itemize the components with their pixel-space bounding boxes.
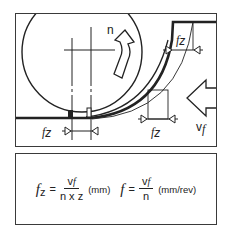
feed-per-tooth-formula: fz = vf n x z (mm) (36, 176, 111, 202)
milling-diagram: n fz fz fz vf (0, 0, 229, 150)
fz-symbol: fz (36, 181, 46, 198)
numerator: vf (64, 176, 78, 189)
fz-label-top: fz (176, 33, 185, 48)
vf-label: vf (196, 120, 207, 136)
rotation-arrow (114, 30, 134, 78)
formula-panel: fz = vf n x z (mm) f = vf n (mm/rev) (15, 153, 217, 225)
rotation-label: n (107, 23, 114, 37)
fz-label-bottom-mid: fz (151, 125, 160, 140)
unit-mm: (mm) (88, 184, 110, 195)
fz-dimension-bottom-mid (138, 115, 178, 123)
equals-sign: = (128, 183, 134, 195)
tooth-insert-right (87, 108, 91, 117)
fraction: vf n (139, 176, 153, 202)
f-symbol: f (120, 181, 124, 198)
denominator: n (143, 189, 149, 202)
fz-label-bottom-left: fz (42, 125, 51, 140)
tooth-insert-left (68, 110, 73, 118)
equals-sign: = (49, 183, 55, 195)
fz-dimension-bottom-left (62, 127, 98, 135)
denominator: n x z (60, 189, 83, 202)
fraction: vf n x z (60, 176, 83, 202)
numerator: vf (139, 176, 153, 189)
unit-mm-per-rev: (mm/rev) (158, 184, 196, 195)
feed-per-rev-formula: f = vf n (mm/rev) (120, 176, 196, 202)
feed-direction-arrow (187, 80, 216, 116)
fz-construction-box (148, 90, 168, 119)
